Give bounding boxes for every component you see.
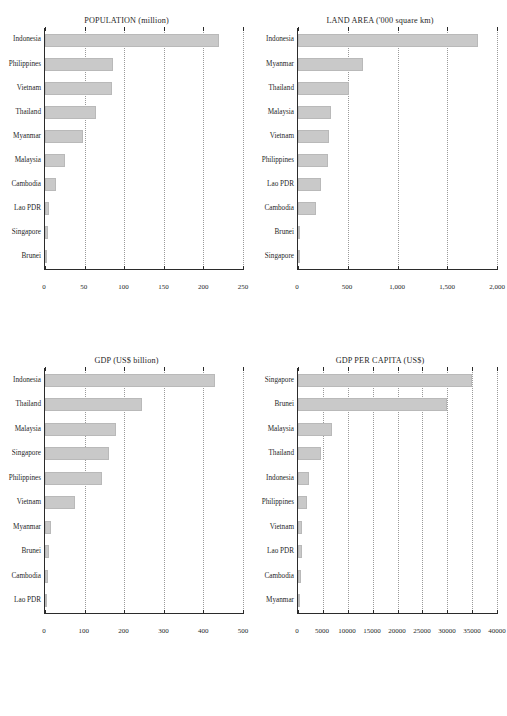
category-label: Cambodia: [11, 181, 41, 188]
x-tick-label: 0: [42, 284, 46, 291]
bar: [298, 570, 301, 583]
category-label: Thailand: [15, 109, 41, 116]
bar-row: Thailand: [298, 442, 497, 467]
category-label: Myanmar: [266, 61, 294, 68]
bar-row: Singapore: [298, 368, 497, 393]
category-label: Philippines: [262, 157, 294, 164]
bar-row: Myanmar: [45, 515, 243, 540]
x-tick-label: 1,500: [439, 284, 455, 291]
bar: [45, 154, 65, 167]
bar: [45, 447, 109, 460]
bar-row: Cambodia: [298, 564, 497, 589]
chart-panel-gdp: GDP (US$ billion) IndonesiaThailandMalay…: [0, 354, 253, 710]
x-tick-label: 200: [118, 628, 129, 635]
category-label: Lao PDR: [267, 181, 294, 188]
bar: [45, 472, 102, 485]
bar: [45, 521, 51, 534]
bar: [45, 130, 83, 143]
bar: [298, 34, 478, 47]
bar: [45, 82, 112, 95]
x-tick-label: 30000: [438, 628, 456, 635]
plot-area-wrapper: IndonesiaThailandMalaysiaSingaporePhilip…: [44, 368, 243, 640]
bar-series: IndonesiaThailandMalaysiaSingaporePhilip…: [45, 368, 243, 613]
chart-panel-gdp-per-capita: GDP PER CAPITA (US$) SingaporeBruneiMala…: [253, 354, 507, 710]
bar-series: IndonesiaMyanmarThailandMalaysiaVietnamP…: [298, 28, 497, 269]
bar: [298, 496, 307, 509]
bar-series: IndonesiaPhilippinesVietnamThailandMyanm…: [45, 28, 243, 269]
bar: [298, 594, 300, 607]
x-axis-tick-labels: 050100150200250: [44, 276, 243, 296]
bar-row: Cambodia: [45, 173, 243, 197]
bar-row: Philippines: [298, 491, 497, 516]
bar: [298, 472, 309, 485]
bar-row: Lao PDR: [45, 197, 243, 221]
x-tick-label: 400: [198, 628, 209, 635]
gridline: [497, 28, 498, 269]
bar: [298, 58, 363, 71]
category-label: Thailand: [15, 401, 41, 408]
x-axis-tick-labels: 05001,0001,5002,000: [297, 276, 497, 296]
bar-row: Myanmar: [298, 52, 497, 76]
category-label: Lao PDR: [14, 205, 41, 212]
bar: [45, 398, 142, 411]
x-tick-label: 0: [295, 628, 299, 635]
x-tick-label: 0: [42, 628, 46, 635]
category-label: Vietnam: [17, 499, 41, 506]
category-label: Thailand: [268, 85, 294, 92]
x-tick-label: 500: [342, 284, 353, 291]
x-tick-label: 500: [238, 628, 249, 635]
bar-row: Brunei: [45, 540, 243, 565]
category-label: Indonesia: [266, 475, 294, 482]
bar-row: Brunei: [298, 393, 497, 418]
bar: [298, 521, 302, 534]
bar: [298, 178, 321, 191]
bar: [45, 594, 47, 607]
bar-row: Indonesia: [45, 28, 243, 52]
bar-row: Myanmar: [298, 589, 497, 614]
chart-title: LAND AREA ('000 square km): [253, 14, 507, 28]
x-tick-label: 2,000: [489, 284, 505, 291]
category-label: Brunei: [21, 253, 41, 260]
category-label: Vietnam: [17, 85, 41, 92]
category-label: Myanmar: [13, 133, 41, 140]
bar: [298, 374, 472, 387]
category-label: Indonesia: [266, 36, 294, 43]
gridline: [243, 368, 244, 613]
chart-panel-land-area: LAND AREA ('000 square km) IndonesiaMyan…: [253, 14, 507, 354]
bar-row: Indonesia: [45, 368, 243, 393]
bar: [298, 423, 332, 436]
x-tick-label: 5000: [315, 628, 329, 635]
x-axis-tick: [497, 266, 498, 270]
bar: [45, 496, 75, 509]
x-tick-label: 300: [158, 628, 169, 635]
bar-row: Vietnam: [298, 124, 497, 148]
x-tick-label: 10000: [338, 628, 356, 635]
bar: [298, 82, 349, 95]
x-axis-tick: [243, 266, 244, 270]
category-label: Philippines: [9, 61, 41, 68]
category-label: Cambodia: [264, 205, 294, 212]
category-label: Singapore: [12, 229, 41, 236]
x-axis-tick: [497, 610, 498, 614]
bar-row: Malaysia: [45, 417, 243, 442]
bar-row: Indonesia: [298, 466, 497, 491]
chart-panel-population: POPULATION (million) IndonesiaPhilippine…: [0, 14, 253, 354]
category-label: Lao PDR: [14, 597, 41, 604]
x-tick-label: 1,000: [389, 284, 405, 291]
chart-title: POPULATION (million): [0, 14, 253, 28]
category-label: Malaysia: [15, 426, 41, 433]
bar-row: Brunei: [298, 221, 497, 245]
category-label: Indonesia: [13, 36, 41, 43]
chart-title: GDP (US$ billion): [0, 354, 253, 368]
x-tick-label: 250: [238, 284, 249, 291]
bar-row: Thailand: [45, 393, 243, 418]
bar: [298, 202, 316, 215]
x-tick-label: 15000: [363, 628, 381, 635]
bar: [298, 226, 300, 239]
category-label: Philippines: [9, 475, 41, 482]
bar: [45, 178, 56, 191]
x-axis-tick: [243, 610, 244, 614]
x-tick-label: 0: [295, 284, 299, 291]
bar-row: Singapore: [45, 442, 243, 467]
category-label: Cambodia: [264, 573, 294, 580]
